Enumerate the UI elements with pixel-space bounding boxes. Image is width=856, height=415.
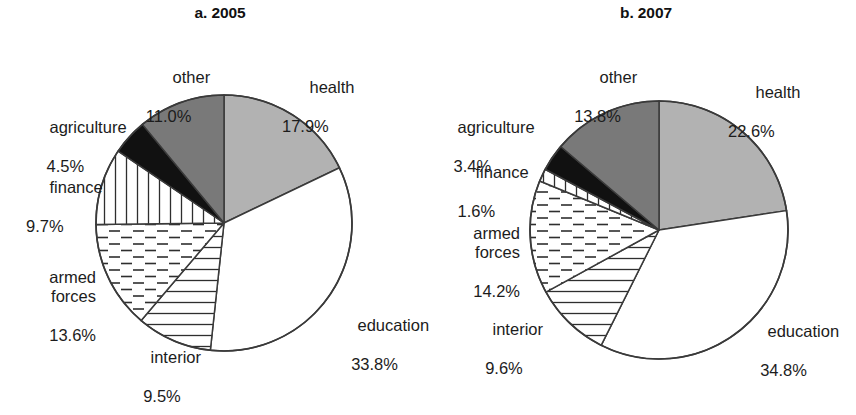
- chart-panel-2005: a. 2005 other 11.0% agriculture 4.5% fin…: [0, 0, 428, 415]
- slice-label-other-name: other: [173, 68, 211, 86]
- slice-label-health-name: health: [310, 78, 355, 96]
- slice-label-interior-name: interior: [151, 348, 201, 366]
- slice-label-health-name: health: [756, 83, 801, 101]
- slice-label-education: education 34.8%: [740, 302, 839, 415]
- slice-label-health-pct: 17.9%: [282, 117, 354, 137]
- slice-label-agriculture-name: agriculture: [50, 118, 127, 136]
- slice-label-finance-name: finance: [476, 163, 529, 181]
- slice-label-interior: interior 9.6%: [456, 300, 552, 415]
- slice-label-other: other 13.8%: [572, 48, 637, 165]
- slice-label-finance-name: finance: [50, 178, 103, 196]
- chart-panel-2007: b. 2007 other 13.8% agriculture 3.4% fin…: [428, 0, 856, 415]
- slice-label-armed-forces-pct: 13.6%: [14, 326, 96, 346]
- slice-label-armed-forces-pct: 14.2%: [428, 282, 520, 302]
- slice-label-interior-name: interior: [493, 320, 543, 338]
- slice-label-armed-forces-name: armedforces: [49, 268, 96, 306]
- slice-label-health: health 22.6%: [728, 63, 800, 180]
- slice-label-interior: interior 9.5%: [114, 328, 210, 415]
- slice-label-education-pct: 33.8%: [330, 355, 429, 375]
- slice-label-armed-forces-name: armedforces: [473, 224, 520, 262]
- pie-chart-figure: a. 2005 other 11.0% agriculture 4.5% fin…: [0, 0, 856, 415]
- slice-label-interior-pct: 9.6%: [456, 359, 552, 379]
- slice-label-education-pct: 34.8%: [740, 361, 839, 381]
- slice-label-armed-forces: armedforces 13.6%: [14, 248, 96, 385]
- slice-label-finance-pct: 9.7%: [22, 217, 103, 237]
- slice-label-interior-pct: 9.5%: [114, 387, 210, 407]
- slice-label-agriculture-name: agriculture: [458, 118, 535, 136]
- slice-label-other-pct: 13.8%: [572, 107, 637, 127]
- slice-label-other-name: other: [600, 68, 638, 86]
- slice-label-education: education 33.8%: [330, 296, 429, 413]
- slice-label-education-name: education: [768, 322, 840, 340]
- slice-label-other: other 11.0%: [145, 48, 210, 165]
- slice-label-health-pct: 22.6%: [728, 122, 800, 142]
- slice-label-education-name: education: [358, 316, 430, 334]
- slice-label-health: health 17.9%: [282, 58, 354, 175]
- slice-label-other-pct: 11.0%: [145, 107, 210, 127]
